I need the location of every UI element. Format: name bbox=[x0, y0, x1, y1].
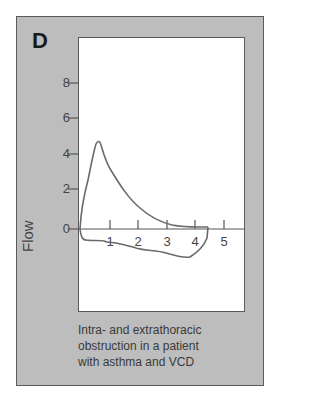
caption-line: Intra- and extrathoracic bbox=[78, 322, 253, 338]
caption-line: obstruction in a patient bbox=[78, 338, 253, 354]
chart-caption: Intra- and extrathoracic obstruction in … bbox=[78, 322, 253, 370]
expiratory-curve bbox=[80, 141, 208, 229]
caption-line: with asthma and VCD bbox=[78, 354, 253, 370]
svg-text:4: 4 bbox=[191, 234, 198, 249]
svg-text:2: 2 bbox=[134, 234, 141, 249]
svg-text:3: 3 bbox=[163, 234, 170, 249]
svg-text:5: 5 bbox=[220, 234, 227, 249]
x-tick-labels: 1 2 3 4 5 bbox=[106, 234, 227, 249]
y-axis-ticks bbox=[68, 83, 78, 229]
inspiratory-curve bbox=[80, 227, 208, 257]
